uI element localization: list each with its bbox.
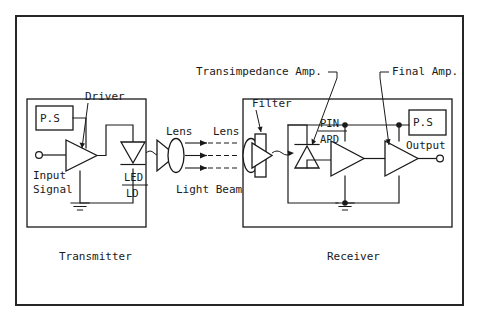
lens-tx-label: Lens xyxy=(166,125,193,138)
receiver-section-label: Receiver xyxy=(327,250,380,263)
final-amp-ground-stub xyxy=(345,176,399,203)
input-label-line1: Input xyxy=(33,169,66,182)
transmitter-lens xyxy=(168,139,184,173)
led-ld-diode-symbol xyxy=(121,142,145,163)
lens-rx-label: Lens xyxy=(213,125,240,138)
output-terminal xyxy=(437,155,444,162)
filter-callout-arrow xyxy=(258,127,263,133)
final-amp-supply-junction-dot xyxy=(396,122,402,128)
light-beam-2-arrow xyxy=(200,153,207,159)
diagram-canvas: P.S Input Signal Driver LED LD Lens xyxy=(0,0,479,321)
transmitter-power-supply-label: P.S xyxy=(40,112,60,125)
output-label: Output xyxy=(406,139,446,152)
input-terminal xyxy=(36,152,43,159)
input-label-line2: Signal xyxy=(33,183,73,196)
transimpedance-amplifier-symbol xyxy=(331,141,364,176)
led-label: LED xyxy=(124,171,143,183)
tia-supply-junction-dot xyxy=(342,122,348,128)
pin-label: PIN xyxy=(320,117,339,129)
driver-callout-line xyxy=(82,103,88,148)
filter-label: Filter xyxy=(252,97,292,110)
light-beam-3-arrow xyxy=(200,165,207,171)
transimpedance-amp-label: Transimpedance Amp. xyxy=(196,65,322,78)
receiver-power-supply-label: P.S xyxy=(413,116,433,129)
final-amp-label: Final Amp. xyxy=(392,65,458,78)
driver-label: Driver xyxy=(85,90,125,103)
ld-label: LD xyxy=(126,187,139,199)
optical-link-diagram: P.S Input Signal Driver LED LD Lens xyxy=(0,0,479,321)
light-beam-label: Light Beam xyxy=(176,183,243,196)
final-amp-callout-line xyxy=(380,72,389,145)
transmitter-ground-symbol xyxy=(71,203,89,210)
transmitter-section-label: Transmitter xyxy=(59,250,132,263)
light-beam-1-arrow xyxy=(200,140,207,146)
